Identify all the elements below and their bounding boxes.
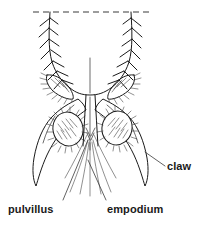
tarsus-line-drawing xyxy=(0,0,202,230)
label-pulvillus: pulvillus xyxy=(8,204,54,215)
empodium-leader-icon xyxy=(88,160,106,200)
label-empodium: empodium xyxy=(107,204,163,215)
left-upper-feathered-pad xyxy=(40,73,73,105)
left-marginal-setae xyxy=(39,18,73,89)
empodium-base-shading xyxy=(86,128,95,140)
figure-container: pulvillus empodium claw xyxy=(0,0,202,230)
right-marginal-setae xyxy=(108,18,142,89)
right-upper-feathered-pad xyxy=(108,73,141,105)
pulvillus-leader-icon xyxy=(63,140,88,200)
label-claw: claw xyxy=(167,161,191,172)
